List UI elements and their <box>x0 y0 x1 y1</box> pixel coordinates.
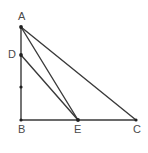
midpoint-mark-dot <box>19 85 22 88</box>
vertex-label-a: A <box>18 11 25 22</box>
segment-de <box>21 55 78 120</box>
segment-ae <box>21 27 78 120</box>
segment-ac <box>21 27 136 120</box>
vertex-label-b: B <box>18 124 25 135</box>
vertex-dot-a <box>19 25 23 29</box>
vertex-dot-b <box>19 118 22 121</box>
segment-group <box>21 27 136 120</box>
vertex-dot-d <box>19 53 23 57</box>
geometry-figure: A D B E C <box>0 0 148 153</box>
vertex-dot-c <box>134 118 137 121</box>
vertex-label-e: E <box>74 124 81 135</box>
vertex-label-d: D <box>8 49 16 60</box>
vertex-label-c: C <box>133 124 141 135</box>
vertex-dot-e <box>76 118 80 122</box>
